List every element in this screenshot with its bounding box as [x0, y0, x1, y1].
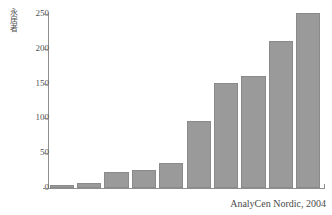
y-tick-group: 50 [0, 153, 49, 154]
bar [187, 121, 211, 189]
y-tick-group: 0 [0, 188, 49, 189]
bar [132, 170, 156, 188]
bar-chart-figure: 永居者 050100150200250 AnalyCen Nordic, 200… [0, 0, 332, 215]
bar [269, 41, 293, 188]
bar [104, 172, 128, 188]
bar [50, 185, 74, 188]
bar [77, 183, 101, 188]
bar [159, 163, 183, 188]
y-tick-mark [43, 188, 49, 189]
bar [296, 13, 320, 188]
bar [214, 83, 238, 188]
source-caption: AnalyCen Nordic, 2004 [230, 198, 326, 210]
y-tick-group: 100 [0, 118, 49, 119]
y-tick-group: 200 [0, 49, 49, 50]
x-axis-line [48, 188, 325, 189]
bar [241, 76, 265, 188]
y-tick-group: 150 [0, 84, 49, 85]
y-tick-group: 250 [0, 14, 49, 15]
bar-series [48, 14, 325, 188]
